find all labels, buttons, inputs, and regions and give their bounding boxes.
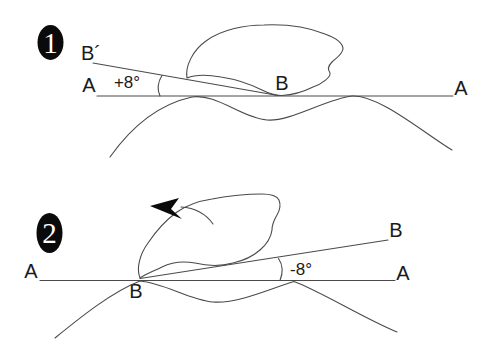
angle-arc-2 <box>279 259 283 281</box>
angle-label-2: -8° <box>290 260 312 279</box>
step-badge-2: 2 <box>37 213 63 253</box>
rotation-arrow-icon <box>150 198 213 224</box>
contact-point-label-2: B <box>129 280 142 302</box>
baseline-1-label-left: A <box>82 74 96 96</box>
step-badge-1-number: 1 <box>43 27 58 59</box>
tilted-line-2-label: B <box>389 219 402 241</box>
angle-label-1: +8° <box>114 73 140 92</box>
panel-2: 2 A A B -8° B <box>24 194 410 338</box>
baseline-2-label-left: A <box>24 260 38 282</box>
ground-curve-2 <box>55 281 397 338</box>
step-badge-2-number: 2 <box>42 217 57 249</box>
baseline-1-label-right: A <box>454 77 468 99</box>
rotation-arrow-head <box>150 198 182 219</box>
tilted-line-1-label: B´ <box>81 42 101 64</box>
figure-canvas: 1 A A B´ +8° B 2 A A B -8° <box>0 0 486 363</box>
angle-arc-1 <box>158 76 162 97</box>
rotation-arrow-tail <box>181 207 213 224</box>
ground-curve-1 <box>110 96 452 157</box>
baseline-2-label-right: A <box>396 262 410 284</box>
panel-1: 1 A A B´ +8° B <box>38 25 469 157</box>
step-badge-1: 1 <box>38 25 64 60</box>
contact-point-label-1: B <box>275 72 288 94</box>
specimen-outline-1 <box>187 25 343 96</box>
